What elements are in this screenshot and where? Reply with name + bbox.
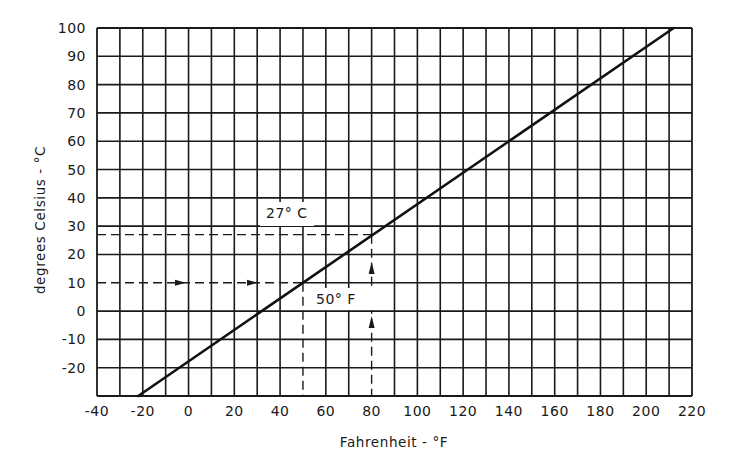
x-tick-label: 0 <box>184 403 193 419</box>
y-axis-title: degrees Celsius - °C <box>32 146 48 294</box>
y-tick-label: -20 <box>62 360 86 376</box>
y-tick-label: 0 <box>77 303 86 319</box>
x-tick-label: 60 <box>316 403 335 419</box>
x-tick-label: 140 <box>495 403 523 419</box>
annotation-50f-label: 50° F <box>316 291 356 307</box>
arrow-right-icon <box>175 280 186 286</box>
x-tick-label: 40 <box>271 403 290 419</box>
y-tick-label: 80 <box>67 77 86 93</box>
y-tick-label: 100 <box>58 20 86 36</box>
y-tick-label: 50 <box>67 162 86 178</box>
annotation-50f: 50° F <box>311 288 373 310</box>
x-tick-label: 200 <box>632 403 660 419</box>
y-tick-label: 60 <box>67 133 86 149</box>
arrow-up-icon <box>369 262 375 274</box>
y-axis-ticks: -20-100102030405060708090100 <box>58 20 86 376</box>
x-tick-label: 180 <box>586 403 614 419</box>
x-tick-label: -20 <box>131 403 155 419</box>
x-tick-label: 20 <box>225 403 244 419</box>
conversion-line <box>138 28 674 396</box>
y-tick-label: 90 <box>67 48 86 64</box>
grid-lines <box>97 28 692 396</box>
y-tick-label: 30 <box>67 218 86 234</box>
x-tick-label: 120 <box>449 403 477 419</box>
conversion-chart: -40-20020406080100120140160180200220 -20… <box>0 0 738 462</box>
x-tick-label: 220 <box>678 403 706 419</box>
arrow-up-icon <box>369 316 375 328</box>
x-tick-label: 100 <box>403 403 431 419</box>
x-tick-label: 80 <box>362 403 381 419</box>
x-tick-label: -40 <box>85 403 109 419</box>
y-tick-label: -10 <box>62 331 86 347</box>
annotation-27c-label: 27° C <box>266 205 308 221</box>
x-tick-label: 160 <box>541 403 569 419</box>
y-tick-label: 10 <box>67 275 86 291</box>
x-axis-ticks: -40-20020406080100120140160180200220 <box>85 403 706 419</box>
annotation-27c: 27° C <box>260 202 314 226</box>
guide-lines <box>97 235 375 396</box>
y-tick-label: 40 <box>67 190 86 206</box>
y-tick-label: 70 <box>67 105 86 121</box>
arrow-right-icon <box>247 280 258 286</box>
celsius-fahrenheit-line <box>138 28 674 396</box>
x-axis-title: Fahrenheit - °F <box>340 434 448 450</box>
y-tick-label: 20 <box>67 246 86 262</box>
